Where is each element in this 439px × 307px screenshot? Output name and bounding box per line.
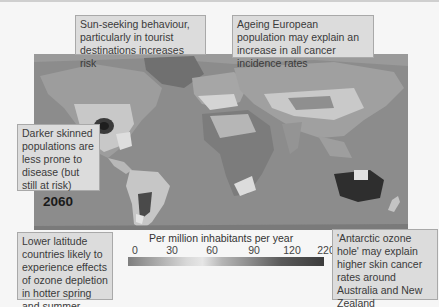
year-label: 2060 bbox=[43, 194, 73, 209]
legend-ticks: 0 30 60 90 120 220 bbox=[128, 244, 328, 256]
legend-tick: 60 bbox=[206, 244, 218, 256]
legend-tick: 30 bbox=[166, 244, 178, 256]
top-border bbox=[0, 0, 439, 2]
color-legend: Per million inhabitants per year 0 30 60… bbox=[113, 230, 332, 270]
legend-title: Per million inhabitants per year bbox=[149, 232, 293, 244]
legend-color-bar bbox=[128, 257, 324, 266]
callout-lower-latitude: Lower latitude countries likely to exper… bbox=[17, 232, 113, 300]
callout-sun-seeking: Sun-seeking behaviour, particularly in t… bbox=[75, 15, 206, 55]
callout-antarctic-ozone: 'Antarctic ozone hole' may explain highe… bbox=[332, 229, 438, 300]
legend-tick: 90 bbox=[248, 244, 260, 256]
legend-tick: 120 bbox=[283, 244, 301, 256]
callout-ageing-europe: Ageing European population may explain a… bbox=[232, 15, 374, 58]
callout-darker-skin: Darker skinned populations are less pron… bbox=[17, 124, 100, 191]
legend-tick: 0 bbox=[132, 244, 138, 256]
